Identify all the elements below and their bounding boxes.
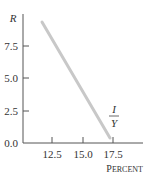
y-tick-label: 0.0 bbox=[4, 137, 18, 149]
y-tick-label: 7.5 bbox=[4, 40, 18, 52]
curve-label-denominator: Y bbox=[111, 117, 119, 129]
curve-label-numerator: I bbox=[111, 103, 117, 115]
x-axis-label: PERCENT bbox=[106, 163, 143, 174]
x-tick-label: 17.5 bbox=[103, 148, 123, 160]
y-axis-label: R bbox=[9, 12, 17, 24]
y-tick-label: 2.5 bbox=[4, 105, 18, 117]
chart: 7.5 5.0 2.5 0.0 12.5 15.0 17.5 R PERCENT… bbox=[0, 0, 148, 181]
y-tick-label: 5.0 bbox=[4, 72, 18, 84]
x-tick-label: 15.0 bbox=[73, 148, 93, 160]
x-tick-label: 12.5 bbox=[42, 148, 62, 160]
iy-curve bbox=[42, 22, 110, 138]
x-axis-label-rest: ERCENT bbox=[112, 165, 143, 174]
